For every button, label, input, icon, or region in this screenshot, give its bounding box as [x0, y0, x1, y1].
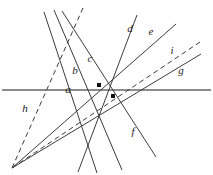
line-label-a: a: [65, 84, 71, 95]
line-f: [62, 11, 156, 157]
line-label-f: f: [131, 126, 134, 137]
line-label-c: c: [88, 53, 93, 64]
line-d: [78, 15, 137, 172]
figure-canvas: [0, 0, 213, 175]
marked-point-upper: [97, 83, 101, 87]
line-e: [12, 24, 176, 168]
marked-point-lower: [111, 94, 115, 98]
lines-group: [2, 8, 211, 173]
line-g: [12, 54, 201, 168]
line-label-d: d: [127, 23, 133, 34]
line-label-g: g: [178, 65, 184, 76]
geometry-figure: abcdefghi: [0, 0, 213, 175]
line-label-h: h: [22, 103, 28, 114]
line-label-i: i: [170, 45, 173, 56]
line-label-e: e: [149, 26, 154, 37]
line-label-b: b: [72, 65, 78, 76]
